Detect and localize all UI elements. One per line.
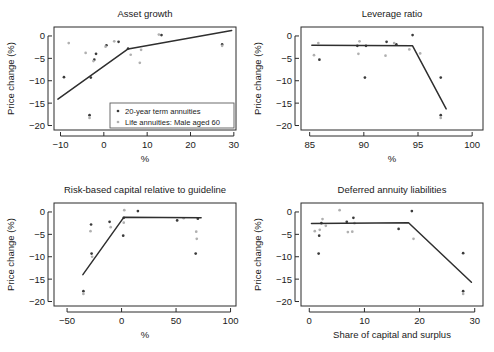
y-axis: 0−5−10−15−20	[29, 206, 52, 307]
data-point	[195, 237, 198, 240]
y-tick-label: −15	[276, 98, 292, 109]
x-tick-label: −10	[52, 139, 68, 150]
y-tick-label: −15	[276, 274, 292, 285]
data-point	[439, 117, 442, 120]
data-point	[408, 48, 411, 51]
data-point	[129, 53, 132, 56]
x-tick-label: 20	[414, 315, 425, 326]
data-point	[317, 252, 320, 255]
x-tick-label: 0	[101, 139, 106, 150]
data-point	[88, 114, 91, 117]
y-tick-label: −5	[281, 229, 292, 240]
data-point	[313, 54, 316, 57]
x-tick-label: 0	[307, 315, 312, 326]
data-point	[351, 230, 354, 233]
data-point	[439, 114, 442, 117]
x-axis-label: %	[141, 329, 150, 340]
x-axis-label: %	[141, 153, 150, 164]
data-area	[82, 209, 201, 295]
data-point	[412, 237, 415, 240]
figure-container: Asset growth0−5−10−15−20Price change (%)…	[0, 0, 494, 352]
fit-line	[312, 45, 446, 109]
series-light	[313, 209, 464, 295]
data-point	[90, 252, 93, 255]
y-tick-label: −20	[276, 120, 292, 131]
x-axis-label: %	[388, 153, 397, 164]
data-point	[104, 45, 107, 48]
y-tick-label: 0	[40, 206, 45, 217]
data-point	[140, 48, 143, 51]
data-point	[176, 219, 179, 222]
data-point	[82, 290, 85, 293]
data-point	[67, 42, 70, 45]
data-point	[91, 255, 94, 258]
data-point	[318, 229, 321, 232]
data-point	[92, 60, 95, 63]
panel-leverage-ratio: Leverage ratio0−5−10−15−20Price change (…	[247, 0, 494, 176]
y-axis-label: Price change (%)	[252, 218, 263, 291]
panel-title: Asset growth	[118, 8, 173, 19]
x-tick-label: 85	[304, 139, 315, 150]
x-tick-label: 10	[359, 315, 370, 326]
panel-risk-based-capital: Risk-based capital relative to guideline…	[0, 176, 247, 352]
data-point	[393, 42, 396, 45]
y-axis: 0−5−10−15−20	[276, 206, 299, 307]
x-tick-label: 50	[171, 315, 182, 326]
y-tick-label: −20	[29, 120, 45, 131]
data-point	[122, 221, 125, 224]
x-axis: 859095100	[304, 132, 480, 150]
y-axis-label: Price change (%)	[252, 42, 263, 115]
data-point	[338, 209, 341, 212]
y-tick-label: −20	[29, 296, 45, 307]
x-tick-label: 90	[359, 139, 370, 150]
data-point	[123, 209, 126, 212]
data-point	[138, 61, 141, 64]
data-point	[462, 290, 465, 293]
data-point	[90, 223, 93, 226]
data-point	[113, 40, 116, 43]
data-point	[88, 117, 91, 120]
data-point	[117, 40, 120, 43]
data-point	[158, 33, 161, 36]
x-axis-label: Share of capital and surplus	[333, 329, 451, 340]
fit-line	[83, 217, 201, 274]
data-point	[122, 234, 125, 237]
x-axis: −100102030	[52, 132, 239, 150]
legend-marker-dark	[117, 110, 120, 113]
y-axis-label: Price change (%)	[5, 42, 16, 115]
data-point	[221, 44, 224, 47]
data-point	[419, 52, 422, 55]
data-point	[411, 210, 414, 213]
panel-title: Leverage ratio	[362, 8, 423, 19]
data-point	[321, 218, 324, 221]
data-point	[347, 231, 350, 234]
y-tick-label: −10	[276, 251, 292, 262]
data-point	[317, 42, 320, 45]
x-axis: −50050100	[59, 308, 238, 326]
y-axis-label: Price change (%)	[5, 218, 16, 291]
panel-asset-growth: Asset growth0−5−10−15−20Price change (%)…	[0, 0, 247, 176]
x-tick-label: 0	[119, 315, 124, 326]
data-point	[358, 40, 361, 43]
legend-label-light: Life annuities: Male aged 60	[125, 118, 220, 127]
y-tick-label: −15	[29, 274, 45, 285]
y-tick-label: −5	[34, 229, 45, 240]
plot-frame	[301, 203, 483, 306]
y-tick-label: −5	[281, 53, 292, 64]
legend: 20-year term annuitiesLife annuities: Ma…	[110, 103, 234, 128]
x-tick-label: 95	[413, 139, 424, 150]
x-tick-label: 10	[142, 139, 153, 150]
y-tick-label: 0	[40, 30, 45, 41]
legend-label-dark: 20-year term annuities	[125, 107, 201, 116]
data-point	[95, 53, 98, 56]
data-point	[462, 252, 465, 255]
plot-frame	[54, 203, 236, 306]
data-point	[160, 34, 163, 37]
data-point	[397, 228, 400, 231]
data-point	[313, 230, 316, 233]
data-point	[439, 76, 442, 79]
y-tick-label: −10	[29, 75, 45, 86]
data-point	[108, 220, 111, 223]
panel-title: Risk-based capital relative to guideline	[64, 184, 226, 195]
fit-line	[58, 31, 232, 100]
